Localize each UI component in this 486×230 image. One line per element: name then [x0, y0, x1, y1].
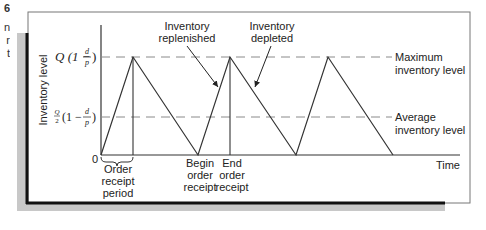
avg-level-label-1: Average — [395, 111, 436, 123]
order-receipt-period-2: receipt — [101, 175, 134, 187]
end-order-receipt-1: End — [222, 157, 242, 169]
begin-order-receipt-2: order — [187, 169, 213, 181]
avg-pre-den: 2 — [55, 117, 59, 125]
replenished-label-2: replenished — [159, 32, 216, 44]
inventory-diagram: Inventory level Q (1 − d p ) Q 2 (1 − d … — [0, 0, 486, 230]
end-order-receipt-2: order — [219, 169, 245, 181]
max-frac-den: p — [84, 58, 89, 67]
avg-close-paren: ) — [92, 110, 96, 124]
max-level-label-2: inventory level — [395, 64, 465, 76]
depleted-label-2: depleted — [251, 32, 293, 44]
max-close-paren: ) — [92, 49, 96, 64]
avg-formula-main: (1 − — [62, 110, 82, 124]
order-receipt-period-1: Order — [104, 163, 132, 175]
depleted-label-1: Inventory — [249, 20, 295, 32]
replenished-label-1: Inventory — [164, 20, 210, 32]
avg-level-label-2: inventory level — [395, 124, 465, 136]
end-order-receipt-3: receipt — [215, 181, 248, 193]
order-receipt-period-3: period — [103, 187, 134, 199]
x-axis-label: Time — [436, 159, 460, 171]
avg-frac-den: p — [84, 118, 89, 127]
origin-label: 0 — [92, 153, 98, 165]
figure-panel — [28, 12, 470, 203]
y-axis-label: Inventory level — [37, 55, 49, 126]
begin-order-receipt-1: Begin — [186, 157, 214, 169]
max-level-label-1: Maximum — [395, 51, 443, 63]
avg-pre-num: Q — [54, 108, 59, 116]
begin-order-receipt-3: receipt — [183, 181, 216, 193]
